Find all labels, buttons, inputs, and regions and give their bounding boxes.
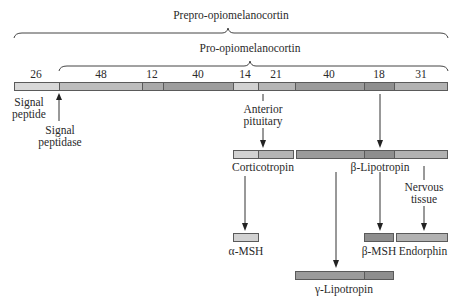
segment-40a xyxy=(163,82,234,91)
segment-21 xyxy=(258,82,296,91)
beta-msh-bar xyxy=(364,233,394,242)
segment-length-label: 40 xyxy=(323,68,335,80)
signal-peptidase-label: Signal peptidase xyxy=(30,124,90,148)
segment-48 xyxy=(59,82,143,91)
segment-length-label: 31 xyxy=(415,68,427,80)
segment-length-label: 40 xyxy=(192,68,204,80)
corticotropin-segment-14 xyxy=(233,150,259,159)
segment-40b xyxy=(295,82,365,91)
alpha-msh-bar xyxy=(233,233,259,242)
segment-31 xyxy=(394,82,448,91)
segment-length-label: 48 xyxy=(95,68,107,80)
segment-14 xyxy=(233,82,259,91)
endorphin-bar xyxy=(396,233,448,242)
segment-length-label: 21 xyxy=(270,68,282,80)
segment-length-label: 14 xyxy=(239,68,251,80)
nervous-tissue-label: Nervous tissue xyxy=(399,181,449,205)
beta-lipotropin-segment-31 xyxy=(394,150,448,159)
prepro-brace xyxy=(14,28,448,38)
signal-peptide-label: Signal peptide xyxy=(4,96,54,120)
pro-brace xyxy=(59,61,448,71)
gamma-lipotropin-segment-40 xyxy=(295,271,365,280)
corticotropin-segment-21 xyxy=(258,150,294,159)
alpha-msh-label: α-MSH xyxy=(221,245,271,257)
gamma-lipotropin-label: γ-Lipotropin xyxy=(304,283,384,295)
segment-length-label: 26 xyxy=(30,68,42,80)
corticotropin-label: Corticotropin xyxy=(223,161,303,173)
beta-lipotropin-segment-40 xyxy=(296,150,365,159)
segment-18 xyxy=(364,82,395,91)
segment-12 xyxy=(142,82,164,91)
gamma-lipotropin-segment-18 xyxy=(364,271,394,280)
beta-lipotropin-segment-18 xyxy=(364,150,395,159)
segment-length-label: 18 xyxy=(373,68,385,80)
anterior-pituitary-label: Anterior pituitary xyxy=(233,103,293,127)
beta-lipotropin-label: β-Lipotropin xyxy=(345,161,415,173)
segment-signal-peptide xyxy=(14,82,60,91)
segment-length-label: 12 xyxy=(146,68,158,80)
endorphin-label: Endorphin xyxy=(394,245,452,257)
